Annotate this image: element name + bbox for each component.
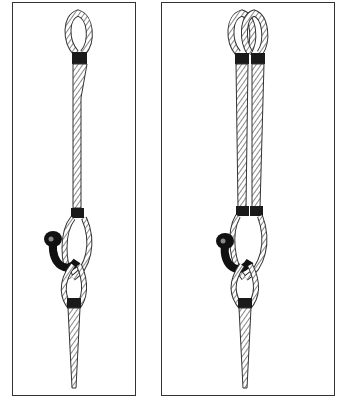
ferrule-mid [71,208,84,218]
ferrule-top [72,52,87,64]
panel-single-sling [12,2,136,396]
double-sling-drawing [162,3,336,397]
shackle-icon [44,231,77,267]
single-sling-drawing [13,3,137,397]
ferrule-bottom [67,298,81,308]
panel-double-sling [161,2,335,396]
